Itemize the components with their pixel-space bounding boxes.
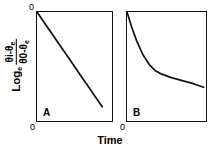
panel-b: B (126, 11, 207, 122)
y-axis-label: Loge θi-θe θ0-θe (0, 0, 32, 130)
panel-b-letter: B (133, 108, 140, 118)
numerator-main: θi-θ (4, 45, 15, 62)
panel-a-data-line (37, 12, 102, 107)
panel-a-plot-area (37, 12, 112, 121)
y-axis-fraction-denominator: θ0-θe (18, 39, 29, 65)
panel-b-data-line (127, 12, 204, 87)
denominator-main: θ0-θ (18, 44, 29, 64)
denominator-subscript: e (23, 40, 30, 44)
panel-a-letter: A (43, 108, 50, 118)
panel-a-origin-tick: 0 (30, 123, 35, 132)
y-axis-log-subscript: e (15, 66, 22, 70)
y-axis-log-term: Loge (10, 66, 22, 91)
x-axis-label: Time (0, 135, 220, 146)
panel-a-y-axis-zero-tick: 0 (29, 3, 34, 12)
panel-b-plot-area (127, 12, 206, 121)
y-axis-log-text: Log (10, 70, 22, 91)
y-axis-fraction-numerator: θi-θe (4, 40, 15, 63)
panel-a: A (36, 11, 113, 122)
y-axis-fraction: θi-θe θ0-θe (4, 39, 29, 65)
numerator-subscript: e (9, 41, 16, 45)
figure-semilog-cooling-plot: Loge θi-θe θ0-θe 0 0 0 A B Time (0, 0, 220, 152)
panel-b-origin-tick: 0 (120, 123, 125, 132)
